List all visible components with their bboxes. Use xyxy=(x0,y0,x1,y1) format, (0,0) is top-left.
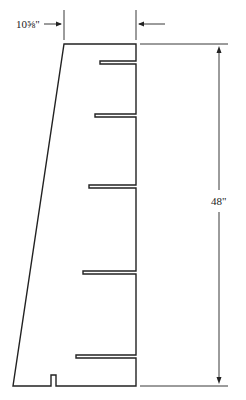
board-outline xyxy=(13,44,136,386)
arrowhead-right-icon xyxy=(138,22,144,27)
board-drawing: 10⅝" 48" xyxy=(0,0,246,400)
top-width-label: 10⅝" xyxy=(16,18,40,30)
arrowhead-down-icon xyxy=(217,377,222,384)
height-label: 48" xyxy=(211,195,227,207)
arrowhead-up-icon xyxy=(217,46,222,53)
arrowhead-left-icon xyxy=(56,22,62,27)
